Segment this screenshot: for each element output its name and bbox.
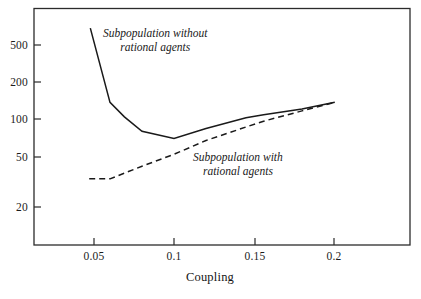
- x-axis-label-0-2: 0.2: [327, 250, 342, 262]
- x-axis-label-0-1: 0.1: [167, 250, 182, 262]
- y-axis-label-50: 50: [2, 151, 28, 163]
- y-axis-label-20: 20: [2, 201, 28, 213]
- annotation-without-rational-agents: Subpopulation without rational agents: [103, 26, 207, 54]
- annotation-with-line-2: rational agents: [193, 164, 283, 178]
- x-axis-title: Coupling: [186, 270, 234, 285]
- annotation-with-rational-agents: Subpopulation with rational agents: [193, 150, 283, 178]
- plot-frame: [34, 9, 410, 246]
- annotation-without-line-2: rational agents: [103, 40, 207, 54]
- y-axis-label-100: 100: [2, 113, 28, 125]
- x-axis-label-0-05: 0.05: [84, 250, 105, 262]
- y-axis-label-500: 500: [2, 39, 28, 51]
- chart-figure: 500 200 100 50 20 0.05 0.1 0.15 0.2 Coup…: [0, 0, 421, 299]
- x-axis-label-0-15: 0.15: [245, 250, 266, 262]
- annotation-without-line-1: Subpopulation without: [103, 26, 207, 40]
- annotation-with-line-1: Subpopulation with: [193, 150, 283, 164]
- y-axis-label-200: 200: [2, 76, 28, 88]
